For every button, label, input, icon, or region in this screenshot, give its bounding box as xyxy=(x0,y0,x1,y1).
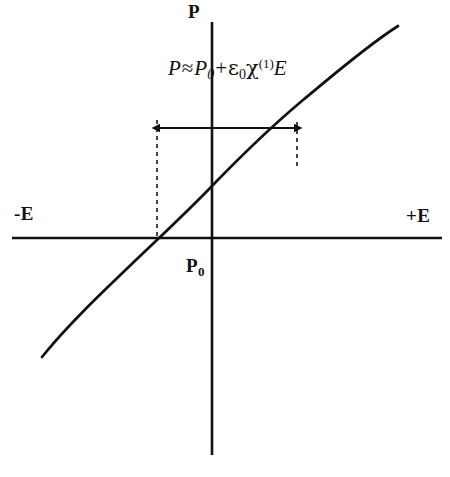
origin-polarization-label: P0 xyxy=(186,256,205,278)
x-axis-label-negative: -E xyxy=(14,204,34,223)
equation-chi-symbol: χ xyxy=(246,56,259,80)
equation-epsilon-symbol: ε xyxy=(228,56,239,80)
equation-approx-symbol: ≈ xyxy=(181,56,195,80)
equation-chi-superscript: (1) xyxy=(259,56,274,71)
equation-plus-symbol: + xyxy=(214,56,228,80)
equation-lhs: P xyxy=(168,56,181,80)
origin-label-subscript: 0 xyxy=(198,264,205,279)
polarization-field-diagram: P -E +E P0 P≈P0+ε0χ(1)E xyxy=(0,0,450,477)
equation-p0-base: P xyxy=(194,56,207,80)
equation-epsilon-subscript: 0 xyxy=(239,67,246,82)
y-axis-label: P xyxy=(188,2,200,21)
polarization-equation: P≈P0+ε0χ(1)E xyxy=(168,57,287,82)
origin-label-base: P xyxy=(186,255,198,276)
equation-field-symbol: E xyxy=(274,56,287,80)
x-axis-label-positive: +E xyxy=(406,206,431,225)
